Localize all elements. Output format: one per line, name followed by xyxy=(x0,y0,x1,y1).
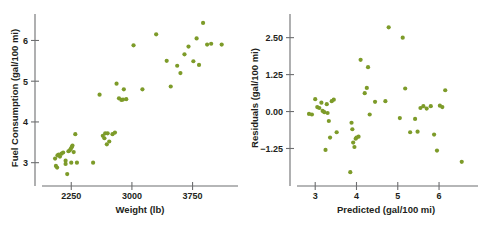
data-point xyxy=(443,88,447,92)
x-tick-label: 3750 xyxy=(183,191,203,201)
data-point xyxy=(178,71,182,75)
data-point xyxy=(408,130,412,134)
data-points xyxy=(307,25,464,174)
data-point xyxy=(387,25,391,29)
x-axis-title: Predicted (gal/100 mi) xyxy=(337,204,435,215)
data-point xyxy=(61,150,65,154)
y-tick-label: 0.00 xyxy=(265,107,283,117)
data-point xyxy=(319,101,323,105)
data-point xyxy=(368,112,372,116)
x-tick-label: 2250 xyxy=(61,191,81,201)
data-point xyxy=(182,52,186,56)
data-point xyxy=(140,87,144,91)
data-point xyxy=(352,145,356,149)
x-tick-label: 5 xyxy=(395,191,400,201)
data-point xyxy=(310,112,314,116)
y-tick-label: 1.25 xyxy=(265,70,283,80)
data-point xyxy=(365,86,369,90)
data-point xyxy=(440,105,444,109)
data-point xyxy=(435,148,439,152)
data-point xyxy=(332,98,336,102)
data-point xyxy=(373,100,377,104)
x-tick-label: 4 xyxy=(354,191,359,201)
data-point xyxy=(401,36,405,40)
x-axis-title: Weight (lb) xyxy=(116,204,165,215)
data-point xyxy=(350,127,354,131)
data-point xyxy=(425,106,429,110)
data-point xyxy=(313,97,317,101)
data-point xyxy=(197,63,201,67)
data-point xyxy=(75,161,79,165)
data-point xyxy=(366,65,370,69)
data-point xyxy=(114,82,118,86)
data-point xyxy=(205,42,209,46)
data-point xyxy=(209,42,213,46)
data-point xyxy=(415,130,419,134)
panel-fuel-vs-weight: 2250300037503456Weight (lb)Fuel Consumpt… xyxy=(0,0,242,229)
data-point xyxy=(335,130,339,134)
data-point xyxy=(349,121,353,125)
data-point xyxy=(131,43,135,47)
data-point xyxy=(359,58,363,62)
data-point xyxy=(124,97,128,101)
data-point xyxy=(191,59,195,63)
data-point xyxy=(403,86,407,90)
data-point xyxy=(186,44,190,48)
data-point xyxy=(432,132,436,136)
data-point xyxy=(97,93,101,97)
y-tick-label: 5 xyxy=(23,77,28,87)
data-point xyxy=(348,170,352,174)
data-point xyxy=(429,104,433,108)
data-point xyxy=(201,21,205,25)
data-point xyxy=(356,135,360,139)
data-point xyxy=(72,150,76,154)
y-axis-title: Residuals (gal/100 mi) xyxy=(249,48,260,148)
x-tick-label: 6 xyxy=(437,191,442,201)
data-point xyxy=(413,117,417,121)
data-point xyxy=(165,59,169,63)
data-point xyxy=(325,111,329,115)
data-point xyxy=(383,99,387,103)
y-tick-label: 6 xyxy=(23,36,28,46)
data-point xyxy=(122,87,126,91)
y-tick-label: 4 xyxy=(23,117,28,127)
data-point xyxy=(65,172,69,176)
data-point xyxy=(55,165,59,169)
scatterplot-fuel-vs-weight: 2250300037503456Weight (lb)Fuel Consumpt… xyxy=(0,0,242,229)
y-axis-title: Fuel Consumption (gal/100 mi) xyxy=(9,29,20,167)
figure-two-scatterplots: 2250300037503456Weight (lb)Fuel Consumpt… xyxy=(0,0,484,229)
data-point xyxy=(327,119,331,123)
data-point xyxy=(328,135,332,139)
data-point xyxy=(317,106,321,110)
data-point xyxy=(169,84,173,88)
data-point xyxy=(91,161,95,165)
data-point xyxy=(154,32,158,36)
y-tick-label: −1.25 xyxy=(260,144,283,154)
data-point xyxy=(325,102,329,106)
data-point xyxy=(363,91,367,95)
data-point xyxy=(323,148,327,152)
data-point xyxy=(73,132,77,136)
data-point xyxy=(113,130,117,134)
data-points xyxy=(53,21,224,176)
data-point xyxy=(351,140,355,144)
data-point xyxy=(175,64,179,68)
x-tick-label: 3 xyxy=(313,191,318,201)
data-point xyxy=(102,136,106,140)
data-point xyxy=(220,42,224,46)
data-point xyxy=(106,131,110,135)
data-point xyxy=(195,36,199,40)
x-tick-label: 3000 xyxy=(122,191,142,201)
data-point xyxy=(70,143,74,147)
scatterplot-residuals-vs-predicted: 34562.501.250.00−1.25Predicted (gal/100 … xyxy=(242,0,484,229)
data-point xyxy=(64,159,68,163)
data-point xyxy=(69,161,73,165)
y-tick-label: 3 xyxy=(23,158,28,168)
data-point xyxy=(398,116,402,120)
data-point xyxy=(460,160,464,164)
data-point xyxy=(107,139,111,143)
panel-residuals-vs-predicted: 34562.501.250.00−1.25Predicted (gal/100 … xyxy=(242,0,484,229)
y-tick-label: 2.50 xyxy=(265,33,283,43)
